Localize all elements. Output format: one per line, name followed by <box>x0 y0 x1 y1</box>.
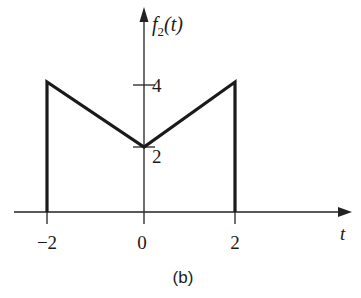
y-axis-label: f2(t) <box>152 13 183 39</box>
x-axis-arrow-icon <box>338 207 352 217</box>
x-tick-label-neg2: −2 <box>37 232 57 253</box>
x-tick-label-2: 2 <box>230 232 240 253</box>
x-axis-label: t <box>340 223 346 244</box>
figure-caption: (b) <box>173 268 194 287</box>
y-tick-label-2: 2 <box>152 146 162 167</box>
y-tick-label-4: 4 <box>152 75 162 96</box>
signal-plot: f2(t) 4 2 −2 0 2 t (b) <box>0 0 361 298</box>
x-tick-label-0: 0 <box>137 232 147 253</box>
y-axis-arrow-icon <box>140 7 149 22</box>
